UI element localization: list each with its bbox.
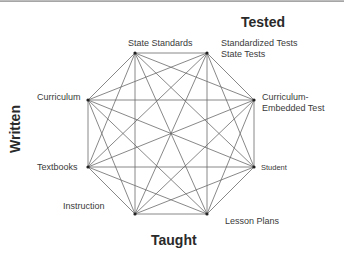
edge-student-lesson-plans <box>207 167 254 214</box>
edge-state-standards-textbooks <box>88 53 135 167</box>
node-curriculum-embedded-test <box>252 98 255 101</box>
edge-state-standards-curriculum <box>88 53 135 100</box>
node-label-state-standards: State Standards <box>128 38 193 48</box>
node-label-lesson-plans: Lesson Plans <box>225 216 279 226</box>
node-state-standards <box>133 51 136 54</box>
node-label-curriculum-embedded-1: Curriculum- <box>262 92 309 102</box>
node-standardized-tests <box>205 51 208 54</box>
node-curriculum <box>86 98 89 101</box>
edge-standardized-tests-student <box>207 53 254 167</box>
axis-label-taught: Taught <box>151 232 197 248</box>
node-label-instruction: Instruction <box>63 201 105 211</box>
edge-lesson-plans-curriculum <box>88 100 207 214</box>
node-label-state-tests: State Tests <box>221 49 265 59</box>
node-textbooks <box>86 165 89 168</box>
edge-standardized-tests-curriculum-embedded-test <box>207 53 254 100</box>
node-label-curriculum: Curriculum <box>37 92 81 102</box>
node-label-curriculum-embedded-2: Embedded Test <box>262 103 324 113</box>
node-label-student: Student <box>261 163 287 173</box>
node-student <box>252 165 255 168</box>
edge-curriculum-embedded-test-lesson-plans <box>207 100 254 214</box>
edge-state-standards-student <box>135 53 254 167</box>
axis-label-written: Written <box>7 105 23 153</box>
node-label-standardized-tests: Standardized Tests <box>221 38 297 48</box>
node-instruction <box>133 212 136 215</box>
axis-label-tested: Tested <box>241 14 285 30</box>
edge-standardized-tests-textbooks <box>88 53 207 167</box>
node-lesson-plans <box>205 212 208 215</box>
edge-curriculum-embedded-test-instruction <box>135 100 254 214</box>
node-label-textbooks: Textbooks <box>37 162 78 172</box>
edge-instruction-curriculum <box>88 100 135 214</box>
